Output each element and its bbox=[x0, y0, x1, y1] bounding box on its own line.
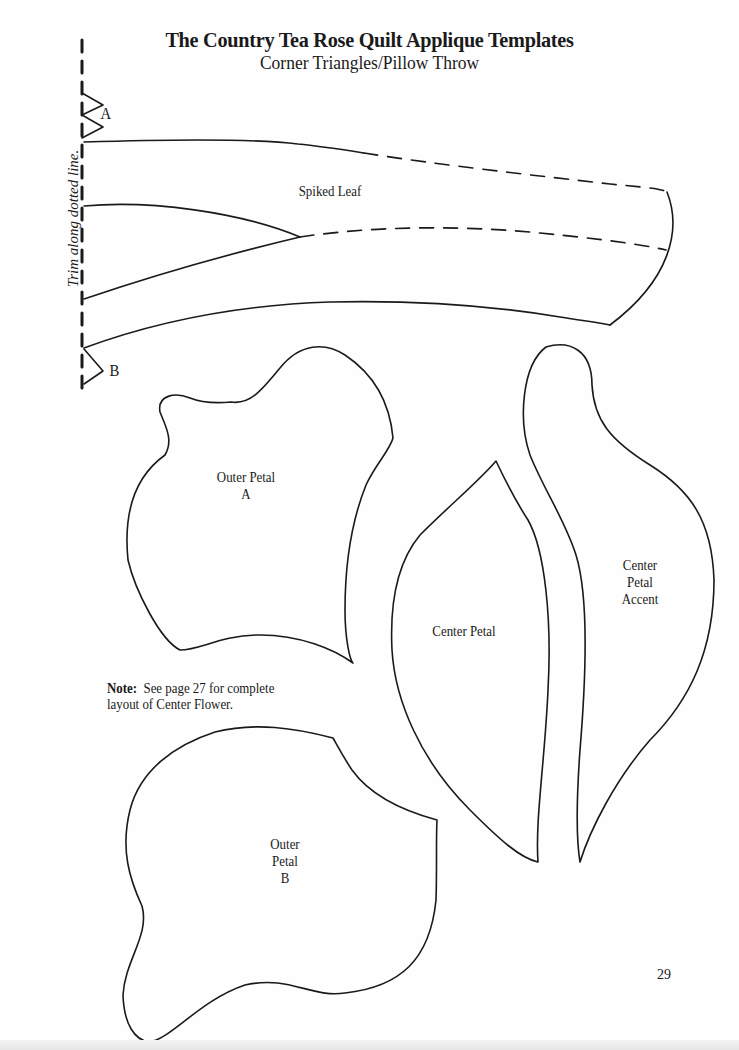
outer-petal-a-label: Outer Petal A bbox=[200, 469, 292, 503]
spiked-leaf-bottom-edge bbox=[84, 302, 610, 348]
center-petal-accent-line1: Center bbox=[594, 557, 686, 574]
spiked-leaf-label: Spiked Leaf bbox=[284, 183, 376, 200]
outer-petal-b-line1: Outer bbox=[239, 836, 331, 853]
outer-petal-b-line2: Petal bbox=[239, 853, 331, 870]
note-text-line1: See page 27 for complete bbox=[143, 681, 274, 696]
marker-a-label: A bbox=[100, 105, 111, 122]
outer-petal-b-label: Outer Petal B bbox=[239, 836, 331, 887]
page-number: 29 bbox=[657, 967, 671, 983]
trim-instruction: Trim along dotted line. bbox=[65, 134, 82, 304]
center-petal-accent-label: Center Petal Accent bbox=[594, 557, 686, 608]
spiked-leaf-spike-lower bbox=[84, 237, 300, 299]
spiked-leaf-inner-dashed bbox=[300, 228, 666, 250]
center-petal-accent-line3: Accent bbox=[594, 591, 686, 608]
note-text-line2: layout of Center Flower. bbox=[107, 697, 274, 713]
spiked-leaf-top-dashed bbox=[364, 153, 667, 192]
outer-petal-a-outline bbox=[127, 347, 393, 663]
marker-b-chevron bbox=[84, 349, 103, 384]
center-petal-accent-line2: Petal bbox=[594, 574, 686, 591]
outer-petal-a-label-line2: A bbox=[200, 486, 292, 503]
spiked-leaf-right-edge bbox=[610, 192, 673, 325]
outer-petal-a-label-line1: Outer Petal bbox=[200, 469, 292, 486]
spiked-leaf-spike-upper bbox=[84, 204, 300, 237]
spiked-leaf-top-edge bbox=[84, 140, 364, 153]
layout-note: Note: See page 27 for complete layout of… bbox=[107, 681, 274, 713]
page-bottom-shadow bbox=[0, 1040, 739, 1050]
center-petal-label: Center Petal bbox=[418, 623, 510, 640]
outer-petal-b-line3: B bbox=[239, 870, 331, 887]
template-outlines bbox=[0, 0, 739, 1050]
center-petal-outline bbox=[392, 461, 549, 862]
template-page: The Country Tea Rose Quilt Applique Temp… bbox=[0, 0, 739, 1050]
marker-b-label: B bbox=[109, 362, 119, 379]
note-label: Note: bbox=[107, 681, 137, 696]
